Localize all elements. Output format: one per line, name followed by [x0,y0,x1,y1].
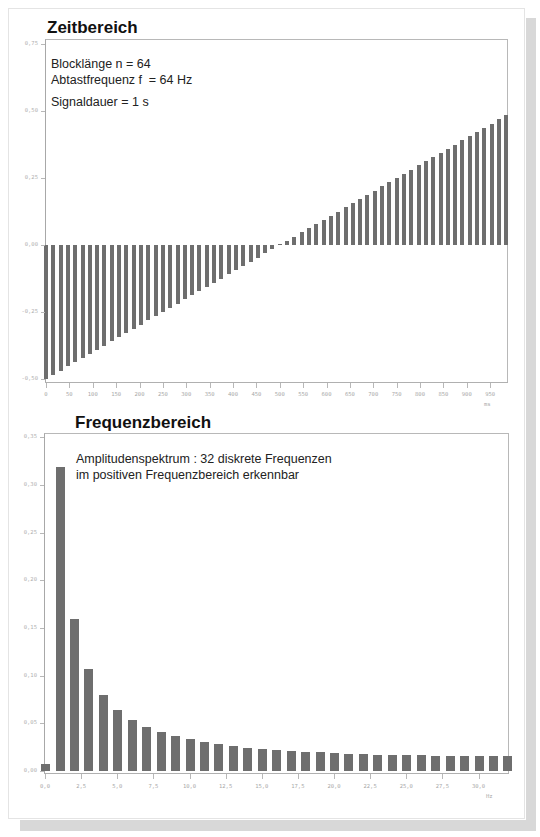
freq-x-tick-label: 25,0 [391,783,421,789]
freq-bar [460,756,469,771]
time-x-tick [397,383,398,388]
time-bar [344,207,348,245]
time-bar [146,245,150,320]
time-y-tick-label: 0,25 [8,174,38,180]
time-bar [263,245,267,253]
freq-bar [70,619,79,771]
freq-x-tick-label: 30,0 [464,783,494,789]
time-bar [234,245,238,270]
freq-x-tick-label: 12,5 [211,783,241,789]
freq-bar [489,756,498,771]
freq-bar [344,754,353,771]
time-bar [387,182,391,245]
time-bar [504,115,508,245]
time-bar [73,245,77,362]
time-y-tick [41,312,45,313]
time-bar [183,245,187,299]
time-y-tick [41,44,45,45]
time-bar [497,119,501,245]
freq-bar [287,751,296,771]
time-x-unit: ms [484,401,491,407]
time-bar [117,245,121,337]
freq-y-tick [40,771,44,772]
time-bar [402,174,406,245]
info-spectrum-line2: im positiven Frequenzbereich erkennbar [76,467,332,483]
freq-x-tick-label: 2,5 [66,783,96,789]
freq-x-tick [262,774,263,779]
time-bar [482,128,486,245]
time-bar [168,245,172,308]
freq-bar [84,669,93,771]
freq-bar [113,710,122,771]
time-bar [205,245,209,287]
page-shadow-bottom [20,820,536,831]
time-x-tick [140,383,141,388]
info-sample-rate-label: Abtastfrequenz f [51,73,142,87]
time-bar [110,245,114,341]
freq-x-tick [334,774,335,779]
freq-chart-title: Frequenzbereich [75,413,211,433]
freq-y-tick [40,485,44,486]
time-x-tick [490,383,491,388]
time-bar [446,149,450,245]
time-y-tick-label: 0,75 [8,40,38,46]
freq-x-tick-label: 7,5 [138,783,168,789]
freq-y-tick-label: 0,15 [7,624,37,630]
time-y-tick-label: -0,25 [8,308,38,314]
time-x-tick [69,383,70,388]
time-bar [212,245,216,283]
info-sample-rate-value: = 64 Hz [145,73,192,87]
freq-bar [272,750,281,771]
freq-bar [200,742,209,771]
freq-y-tick-label: 0,30 [7,481,37,487]
freq-x-tick [117,774,118,779]
time-bar [285,241,289,245]
freq-x-tick-label: 15,0 [247,783,277,789]
freq-bar [475,756,484,771]
time-x-tick [467,383,468,388]
time-bar [132,245,136,329]
time-bar [380,186,384,245]
time-bar [307,228,311,245]
freq-bar [258,749,267,771]
time-bar [102,245,106,346]
freq-info: Amplitudenspektrum : 32 diskrete Frequen… [76,451,332,483]
time-x-tick-label: 950 [475,391,505,397]
freq-bar [56,467,65,771]
freq-x-tick [81,774,82,779]
time-x-tick [443,383,444,388]
freq-bar [503,756,512,771]
time-bar [300,232,304,245]
freq-bar [431,756,440,771]
time-bar [351,203,355,245]
freq-x-tick [45,774,46,779]
time-bar [439,153,443,245]
time-x-tick [303,383,304,388]
time-x-tick [280,383,281,388]
freq-bar [214,744,223,771]
time-y-tick-label: 0,50 [8,107,38,113]
time-y-tick [41,178,45,179]
freq-x-tick-label: 0,0 [30,783,60,789]
time-bar [190,245,194,295]
time-x-tick [420,383,421,388]
time-bar [197,245,201,291]
freq-y-tick [40,628,44,629]
freq-x-unit: Hz [486,793,493,799]
time-bar [124,245,128,333]
freq-x-tick [370,774,371,779]
freq-bar [316,752,325,771]
freq-y-tick [40,676,44,677]
time-x-tick [163,383,164,388]
info-spectrum-line1: Amplitudenspektrum : 32 diskrete Frequen… [76,451,332,467]
freq-x-tick [153,774,154,779]
time-bar [95,245,99,350]
freq-y-tick [40,723,44,724]
time-bar [314,224,318,245]
time-bar [227,245,231,274]
freq-y-tick-label: 0,00 [7,767,37,773]
freq-x-tick [442,774,443,779]
freq-x-tick [406,774,407,779]
time-bar [154,245,158,316]
time-bar [468,136,472,245]
